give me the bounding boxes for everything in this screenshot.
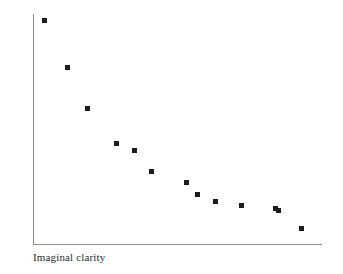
plot-canvas	[0, 0, 343, 274]
data-point	[299, 226, 304, 231]
data-point	[239, 203, 244, 208]
scatter-plot-figure: Anxiety Imaginal clarity	[0, 0, 343, 274]
data-point	[132, 148, 137, 153]
data-point	[65, 65, 70, 70]
data-point	[213, 199, 218, 204]
data-point	[184, 180, 189, 185]
data-point	[114, 141, 119, 146]
data-point	[42, 18, 47, 23]
x-axis-label: Imaginal clarity	[33, 251, 105, 263]
data-point	[276, 208, 281, 213]
data-point-group	[42, 18, 304, 231]
data-point	[149, 169, 154, 174]
data-point	[85, 106, 90, 111]
data-point	[195, 192, 200, 197]
